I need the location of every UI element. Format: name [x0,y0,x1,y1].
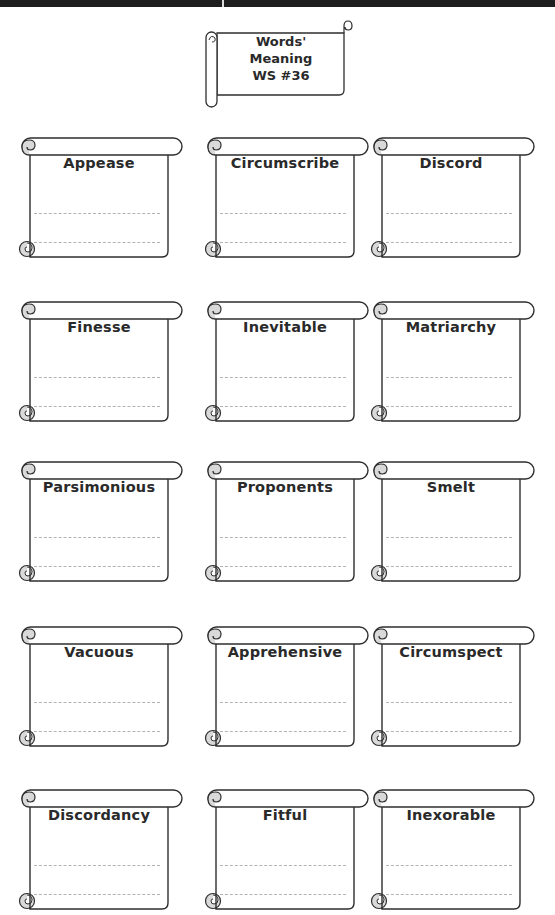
answer-line-1[interactable] [386,865,512,866]
vocabulary-word: Appease [26,155,172,171]
word-scroll-card: Discord [370,135,540,265]
vocabulary-word: Inevitable [212,319,358,335]
word-scroll-card: Proponents [204,459,374,589]
answer-line-2[interactable] [386,406,512,407]
answer-line-2[interactable] [34,242,160,243]
answer-line-2[interactable] [220,894,346,895]
vocabulary-word: Vacuous [26,644,172,660]
word-scroll-card: Apprehensive [204,624,374,754]
worksheet-title-scroll: Words' Meaning WS #36 [203,20,353,110]
answer-line-2[interactable] [34,566,160,567]
answer-line-1[interactable] [386,213,512,214]
vocabulary-word: Matriarchy [378,319,524,335]
word-scroll-card: Vacuous [18,624,188,754]
vocabulary-word: Inexorable [378,807,524,823]
word-scroll-card: Smelt [370,459,540,589]
word-scroll-card: Circumspect [370,624,540,754]
word-scroll-card: Discordancy [18,787,188,915]
vocabulary-word: Proponents [212,479,358,495]
answer-line-2[interactable] [220,242,346,243]
answer-line-1[interactable] [220,213,346,214]
answer-line-2[interactable] [220,406,346,407]
answer-line-1[interactable] [34,377,160,378]
answer-line-2[interactable] [34,406,160,407]
answer-line-1[interactable] [34,865,160,866]
vocabulary-word: Fitful [212,807,358,823]
title-line-3: WS #36 [221,67,341,84]
answer-line-1[interactable] [34,537,160,538]
vocabulary-word: Discord [378,155,524,171]
answer-line-2[interactable] [220,566,346,567]
word-scroll-card: Appease [18,135,188,265]
top-band-divider [222,0,224,7]
vocabulary-word: Finesse [26,319,172,335]
word-scroll-card: Inevitable [204,299,374,429]
word-scroll-card: Finesse [18,299,188,429]
answer-line-1[interactable] [220,865,346,866]
word-scroll-card: Inexorable [370,787,540,915]
answer-line-1[interactable] [220,537,346,538]
vocabulary-word: Apprehensive [212,644,358,660]
vocabulary-word: Circumscribe [212,155,358,171]
answer-line-1[interactable] [386,377,512,378]
answer-line-2[interactable] [386,731,512,732]
word-scroll-card: Matriarchy [370,299,540,429]
title-line-1: Words' [221,33,341,50]
vocabulary-word: Discordancy [26,807,172,823]
answer-line-2[interactable] [220,731,346,732]
answer-line-1[interactable] [34,702,160,703]
word-scroll-card: Fitful [204,787,374,915]
answer-line-1[interactable] [34,213,160,214]
worksheet-title: Words' Meaning WS #36 [221,33,341,84]
top-dark-band [0,0,555,7]
answer-line-1[interactable] [386,537,512,538]
answer-line-2[interactable] [386,242,512,243]
vocabulary-word: Parsimonious [26,479,172,495]
answer-line-2[interactable] [34,731,160,732]
word-scroll-card: Parsimonious [18,459,188,589]
answer-line-2[interactable] [34,894,160,895]
vocabulary-word: Smelt [378,479,524,495]
vocabulary-word: Circumspect [378,644,524,660]
title-line-2: Meaning [221,50,341,67]
answer-line-2[interactable] [386,894,512,895]
answer-line-1[interactable] [220,377,346,378]
answer-line-2[interactable] [386,566,512,567]
answer-line-1[interactable] [386,702,512,703]
word-scroll-card: Circumscribe [204,135,374,265]
answer-line-1[interactable] [220,702,346,703]
